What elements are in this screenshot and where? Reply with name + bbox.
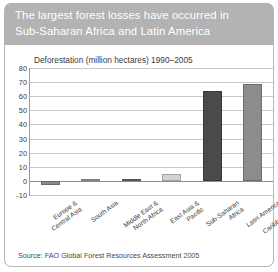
chart-card: Deforestation (million hectares) 1990–20… xyxy=(4,45,274,267)
page-title: The largest forest losses have occurred … xyxy=(15,8,264,39)
y-axis-tick-label: -10 xyxy=(16,191,27,200)
y-axis-tick-label: 0 xyxy=(23,176,27,185)
gridline xyxy=(30,124,273,125)
bar xyxy=(81,179,100,181)
y-axis-tick-label: 10 xyxy=(19,162,27,171)
bar xyxy=(122,179,141,181)
chart-figure: The largest forest losses have occurred … xyxy=(0,0,278,272)
y-axis-tick-label: 60 xyxy=(19,92,27,101)
x-axis-tick-label: South Asia xyxy=(78,199,120,232)
gridline xyxy=(30,139,273,140)
y-axis-tick-label: 70 xyxy=(19,78,27,87)
chart-subtitle: Deforestation (million hectares) 1990–20… xyxy=(34,55,193,65)
title-banner: The largest forest losses have occurred … xyxy=(4,3,274,45)
gridline xyxy=(30,68,273,69)
x-axis-tick-label: Middle East & North Africa xyxy=(118,199,164,238)
gridline xyxy=(30,96,273,97)
bar xyxy=(41,181,60,185)
y-axis-tick-label: 20 xyxy=(19,148,27,157)
y-axis-tick-label: 50 xyxy=(19,106,27,115)
bar xyxy=(243,84,262,181)
plot-area: 80706050403020100-10Europe & Central Asi… xyxy=(29,68,273,196)
gridline xyxy=(30,195,273,196)
zero-line xyxy=(30,181,273,182)
x-axis-tick-label: East Asia & Pacific xyxy=(159,199,205,238)
gridline xyxy=(30,82,273,83)
y-axis-tick-label: 40 xyxy=(19,120,27,129)
gridline xyxy=(30,167,273,168)
bar xyxy=(162,174,181,181)
bar xyxy=(203,91,222,181)
gridline xyxy=(30,153,273,154)
gridline xyxy=(30,110,273,111)
x-axis-tick-label: Sub-Saharan Africa xyxy=(199,199,245,238)
y-axis-tick-label: 30 xyxy=(19,134,27,143)
y-axis-tick-label: 80 xyxy=(19,64,27,73)
x-axis-tick-label: Europe & Central Asia xyxy=(37,199,83,238)
x-axis-tick-label: Latin America & Caribbean xyxy=(240,199,278,244)
source-note: Source: FAO Global Forest Resources Asse… xyxy=(18,251,199,260)
